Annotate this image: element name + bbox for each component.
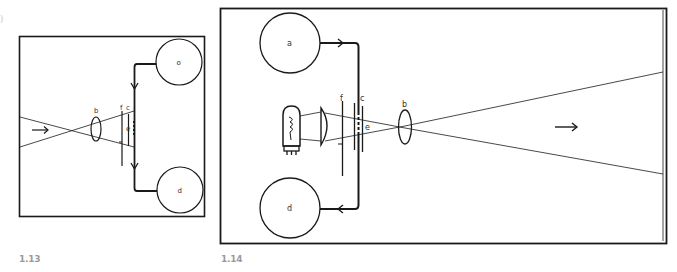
light-cone-1-13 [20, 111, 134, 147]
direction-arrow-1-13 [32, 127, 48, 134]
plate-f-label-1-14: f [340, 94, 343, 103]
gate-label-1-14: e [365, 123, 370, 132]
supply-reel-label-1-13: o [177, 59, 181, 67]
plate-c-label-1-13: c [126, 104, 130, 112]
direction-arrow-1-14 [555, 123, 577, 131]
stray-mark: ) [0, 14, 4, 24]
takeup-reel-label-1-13: d [178, 187, 182, 195]
supply-reel-label-1-14: a [287, 39, 292, 48]
lens-label-1-14: b [402, 100, 407, 109]
gate-label-1-13: e [126, 125, 130, 133]
film-path-1-14 [320, 43, 359, 209]
figure-1-13: b f c e o d [20, 37, 205, 217]
plate-c-label-1-14: c [360, 94, 364, 103]
plate-f-label-1-13: f [120, 104, 123, 112]
figure-caption-1-14: 1.14 [221, 254, 242, 264]
lens-label-1-13: b [94, 107, 99, 115]
figure-1-14: f c e b [221, 9, 667, 244]
projection-diagrams: b f c e o d [0, 0, 677, 272]
lamp-1-14 [283, 106, 300, 155]
diagram-stage: ) b f c [0, 0, 677, 272]
figure-caption-1-13: 1.13 [19, 254, 40, 264]
takeup-reel-label-1-14: d [287, 204, 292, 213]
